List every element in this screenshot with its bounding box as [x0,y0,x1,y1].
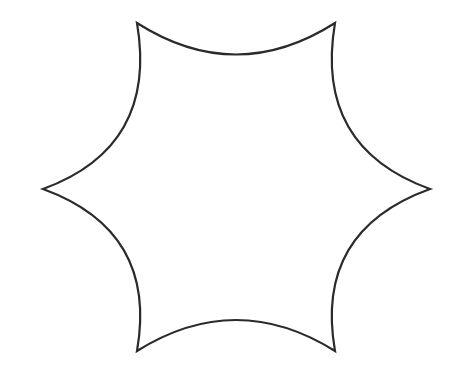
drawing-canvas [0,0,457,371]
six-pointed-star-figure [0,0,457,371]
